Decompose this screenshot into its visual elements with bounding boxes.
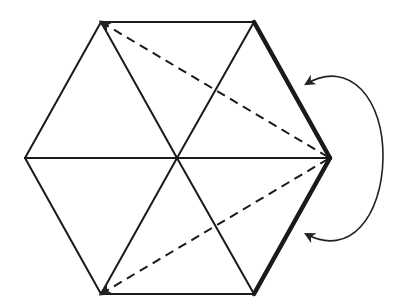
hexagon-edge-bottom-left [25, 158, 101, 294]
bold-edge-lower-right [254, 158, 330, 294]
spoke-top-left [101, 22, 177, 158]
hexagon-edge-top-left [25, 22, 101, 158]
spoke-top-right [177, 22, 254, 158]
bold-edge-upper-right [254, 22, 330, 158]
spoke-bottom-right [177, 158, 254, 294]
hexagon-diagram [0, 0, 401, 305]
spoke-bottom-left [101, 158, 177, 294]
